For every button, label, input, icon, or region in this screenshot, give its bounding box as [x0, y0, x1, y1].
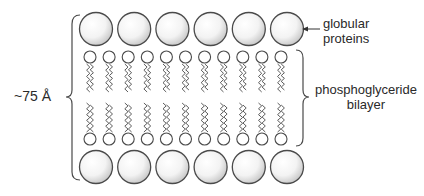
- bilayer-label: phosphoglyceride bilayer: [310, 82, 422, 112]
- lipid-tail: [125, 103, 128, 132]
- lipid-tail: [243, 64, 246, 90]
- lipid-tail: [205, 64, 208, 90]
- lipid-head: [237, 51, 249, 63]
- lipid-tail: [128, 64, 131, 90]
- lipid-tail: [167, 105, 170, 132]
- lipid-tail: [186, 64, 189, 90]
- phospholipid-pair: [84, 51, 96, 145]
- lipid-tail: [224, 64, 227, 90]
- lipid-tail: [239, 64, 242, 92]
- lipid-tail: [148, 105, 151, 132]
- lipid-tail: [182, 64, 185, 92]
- lipid-head: [199, 133, 211, 145]
- lipid-head: [122, 133, 134, 145]
- bottom-globular-proteins: [80, 151, 304, 184]
- lipid-head: [237, 133, 249, 145]
- lipid-head: [218, 51, 230, 63]
- lipid-head: [256, 133, 268, 145]
- bilayer-brace: [296, 50, 309, 146]
- globular-protein: [232, 13, 265, 46]
- lipid-head: [180, 51, 192, 63]
- phosphoglyceride-bilayer: [84, 51, 287, 145]
- lipid-tail: [87, 64, 90, 92]
- lipid-tail: [243, 105, 246, 132]
- lipid-tail: [109, 105, 112, 132]
- lipid-tail: [201, 64, 204, 92]
- lipid-tail: [201, 103, 204, 132]
- lipid-head: [275, 51, 287, 63]
- lipid-tail: [106, 64, 109, 92]
- lipid-tail: [109, 64, 112, 90]
- lipid-tail: [220, 64, 223, 92]
- lipid-tail: [90, 105, 93, 132]
- lipid-tail: [148, 64, 151, 90]
- phospholipid-pair: [141, 51, 153, 145]
- phospholipid-pair: [199, 51, 211, 145]
- lipid-head: [103, 51, 115, 63]
- lipid-head: [141, 51, 153, 63]
- lipid-tail: [90, 64, 93, 90]
- lipid-head: [199, 51, 211, 63]
- lipid-tail: [239, 103, 242, 132]
- lipid-head: [160, 51, 172, 63]
- globular-protein: [80, 13, 113, 46]
- lipid-head: [275, 133, 287, 145]
- top-globular-proteins: [80, 13, 304, 46]
- phospholipid-pair: [160, 51, 172, 145]
- phospholipid-pair: [218, 51, 230, 145]
- globular-proteins-label-line2: proteins: [323, 31, 369, 46]
- lipid-tail: [278, 64, 281, 92]
- pointer-arrow: [302, 27, 320, 32]
- lipid-tail: [167, 64, 170, 90]
- lipid-tail: [205, 105, 208, 132]
- globular-protein: [194, 13, 227, 46]
- lipid-tail: [144, 103, 147, 132]
- thickness-brace: [66, 15, 80, 180]
- lipid-tail: [224, 105, 227, 132]
- lipid-tail: [144, 64, 147, 92]
- lipid-tail: [182, 103, 185, 132]
- lipid-tail: [128, 105, 131, 132]
- lipid-tail: [259, 103, 262, 132]
- lipid-head: [141, 133, 153, 145]
- phospholipid-pair: [256, 51, 268, 145]
- lipid-tail: [163, 64, 166, 92]
- phospholipid-pair: [237, 51, 249, 145]
- phospholipid-pair: [122, 51, 134, 145]
- lipid-head: [103, 133, 115, 145]
- lipid-tail: [125, 64, 128, 92]
- lipid-tail: [278, 103, 281, 132]
- globular-protein: [156, 13, 189, 46]
- phospholipid-pair: [275, 51, 287, 145]
- globular-protein: [156, 151, 189, 184]
- lipid-head: [84, 51, 96, 63]
- globular-protein: [271, 151, 304, 184]
- bilayer-label-line1: phosphoglyceride: [310, 82, 422, 97]
- lipid-tail: [281, 64, 284, 90]
- globular-proteins-label: globular proteins: [323, 16, 369, 46]
- thickness-label: ~75 Å: [14, 89, 51, 104]
- globular-protein: [118, 151, 151, 184]
- phospholipid-pair: [180, 51, 192, 145]
- lipid-tail: [262, 105, 265, 132]
- lipid-tail: [220, 103, 223, 132]
- lipid-tail: [281, 105, 284, 132]
- lipid-tail: [163, 103, 166, 132]
- lipid-head: [218, 133, 230, 145]
- globular-proteins-label-line1: globular: [323, 16, 369, 31]
- lipid-head: [122, 51, 134, 63]
- lipid-tail: [87, 103, 90, 132]
- lipid-head: [84, 133, 96, 145]
- lipid-head: [160, 133, 172, 145]
- lipid-tail: [106, 103, 109, 132]
- bilayer-label-line2: bilayer: [310, 97, 422, 112]
- phospholipid-pair: [103, 51, 115, 145]
- globular-protein: [271, 13, 304, 46]
- lipid-head: [256, 51, 268, 63]
- lipid-tail: [259, 64, 262, 92]
- lipid-tail: [262, 64, 265, 90]
- globular-protein: [194, 151, 227, 184]
- lipid-head: [180, 133, 192, 145]
- globular-protein: [80, 151, 113, 184]
- globular-protein: [232, 151, 265, 184]
